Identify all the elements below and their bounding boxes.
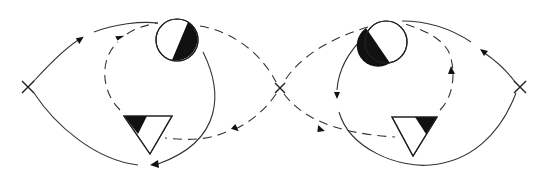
flow-diagram [0, 0, 549, 173]
edge-circle-right-to-cross-center [284, 27, 368, 82]
edge-triangle-right-to-circle-right [405, 24, 453, 110]
cross-center-icon [275, 83, 285, 93]
triangle-right-corner-filled-icon [392, 117, 437, 156]
triangle-left-corner-filled-icon [124, 116, 172, 154]
edge-circle-left-to-bottom [158, 52, 215, 164]
edge-cross-center-to-triangle-right [284, 94, 395, 137]
arrow-icon [334, 92, 340, 99]
edge-cross-left-to-circle-left [33, 38, 82, 82]
arrow-icon [115, 34, 125, 41]
edge-cross-right-to-circle-right [483, 52, 515, 82]
edge-triangle-left-to-circle-left [105, 42, 120, 110]
arrow-icon [448, 66, 455, 74]
arrow-icon [316, 125, 326, 134]
edge-cross-left-to-circle-left-upper [94, 22, 158, 32]
cross-right-icon [514, 81, 526, 93]
edge-triangle-left-to-circle-left-upper [127, 23, 158, 34]
edge-cross-center-to-triangle-left [232, 94, 276, 130]
edge-cross-center-to-triangle-left-lower [165, 132, 226, 139]
cross-left-icon [22, 81, 34, 93]
edge-cross-left-to-bottom [34, 93, 138, 165]
circle-left-half-filled-icon [156, 19, 198, 61]
arrow-icon [150, 160, 159, 168]
